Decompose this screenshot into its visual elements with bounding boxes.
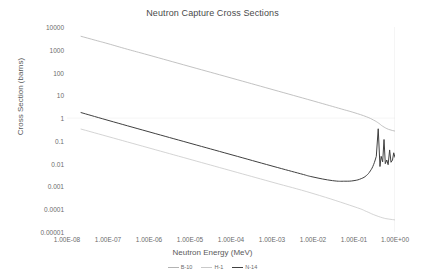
legend-swatch-icon [232,267,243,268]
x-tick-label: 1.00E-06 [136,236,162,243]
x-tick-label: 1.00E-04 [218,236,244,243]
legend-item-b-10[interactable]: B-10 [168,264,193,270]
x-tick-label: 1.00E-02 [300,236,326,243]
y-tick-label: 100 [53,69,64,76]
series-layer [81,36,395,220]
legend-swatch-icon [168,267,179,268]
chart-title: Neutron Capture Cross Sections [0,8,425,18]
series-line-h-1 [81,129,395,220]
y-tick-label: 0.00001 [41,229,65,236]
plot-svg [67,27,395,232]
chart-legend: B-10H-1N-14 [0,264,425,270]
y-tick-label: 10 [57,92,64,99]
legend-item-h-1[interactable]: H-1 [201,264,223,270]
legend-label: N-14 [245,264,257,270]
y-tick-label: 10000 [46,24,64,31]
x-tick-label: 1.00E-05 [177,236,203,243]
series-line-n-14 [81,113,395,182]
y-tick-label: 0.01 [51,160,64,167]
y-tick-label: 1000 [50,46,64,53]
y-tick-label: 0.1 [55,137,64,144]
x-tick-label: 1.00E-03 [259,236,285,243]
y-axis-ticks: 1000010001001010.10.010.0010.00010.00001 [0,27,64,232]
x-tick-label: 1.00E-01 [341,236,367,243]
y-tick-label: 0.001 [48,183,64,190]
chart-container: Neutron Capture Cross Sections Cross Sec… [0,0,425,278]
legend-item-n-14[interactable]: N-14 [232,264,257,270]
x-tick-label: 1.00E-08 [54,236,80,243]
x-axis-ticks: 1.00E-081.00E-071.00E-061.00E-051.00E-04… [67,236,395,248]
x-tick-label: 1.00E-07 [95,236,121,243]
y-tick-label: 0.0001 [44,206,64,213]
legend-swatch-icon [201,267,212,268]
legend-label: H-1 [214,264,223,270]
y-tick-label: 1 [60,115,64,122]
x-axis-title: Neutron Energy (MeV) [0,248,425,257]
plot-area [67,27,395,232]
legend-label: B-10 [181,264,193,270]
x-tick-label: 1.00E+00 [381,236,409,243]
series-line-b-10 [81,36,395,131]
